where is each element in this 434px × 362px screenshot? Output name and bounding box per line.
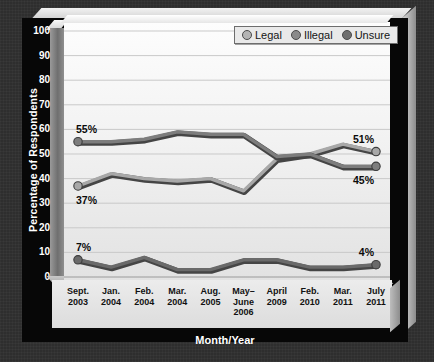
chart-legend[interactable]: LegalIllegalUnsure: [234, 26, 398, 44]
data-label-unsure-left: 7%: [76, 241, 91, 253]
y-tick-label: 80: [24, 74, 50, 85]
line-chart-svg: [64, 23, 390, 281]
x-tick-line: 2006: [221, 307, 267, 318]
legend-label: Illegal: [304, 29, 333, 41]
legend-item-unsure[interactable]: Unsure: [342, 29, 390, 41]
data-label-illegal-right: 45%: [344, 174, 374, 186]
legend-label: Legal: [255, 29, 282, 41]
x-tick-line: July: [353, 286, 399, 297]
legend-marker-icon: [242, 30, 252, 40]
data-label-legal-right: 51%: [344, 133, 374, 145]
plot-top-bevel: [61, 15, 394, 23]
y-tick-label: 70: [24, 98, 50, 109]
y-tick-label: 10: [24, 246, 50, 257]
data-point-marker: [74, 256, 82, 264]
plot-area: 55%37%7%51%45%4%: [64, 22, 390, 281]
data-point-marker: [74, 182, 82, 190]
x-tick-label: July2011: [353, 286, 399, 307]
chart-frame: Percentage of Respondents 10090807060504…: [12, 8, 422, 348]
data-label-unsure-right: 4%: [344, 246, 374, 258]
x-axis-ticks: Sept.2003Jan.2004Feb.2004Mar.2004Aug.200…: [64, 286, 390, 330]
data-point-marker: [372, 162, 380, 170]
data-point-marker: [74, 138, 82, 146]
y-tick-label: 20: [24, 221, 50, 232]
y-axis-ticks: 1009080706050403020100: [20, 22, 50, 280]
data-point-marker: [372, 147, 380, 155]
x-axis-title: Month/Year: [52, 330, 398, 350]
data-label-illegal-left: 55%: [76, 123, 97, 135]
x-tick-line: 2011: [353, 297, 399, 308]
legend-item-illegal[interactable]: Illegal: [291, 29, 333, 41]
y-tick-label: 100: [24, 25, 50, 36]
legend-marker-icon: [342, 30, 352, 40]
legend-marker-icon: [291, 30, 301, 40]
y-axis-wall: [50, 28, 64, 280]
y-tick-label: 40: [24, 172, 50, 183]
y-tick-label: 50: [24, 148, 50, 159]
y-tick-label: 30: [24, 197, 50, 208]
legend-item-legal[interactable]: Legal: [242, 29, 282, 41]
y-tick-label: 60: [24, 123, 50, 134]
legend-label: Unsure: [355, 29, 390, 41]
data-label-legal-left: 37%: [76, 194, 97, 206]
y-tick-label: 90: [24, 49, 50, 60]
data-point-marker: [372, 261, 380, 269]
